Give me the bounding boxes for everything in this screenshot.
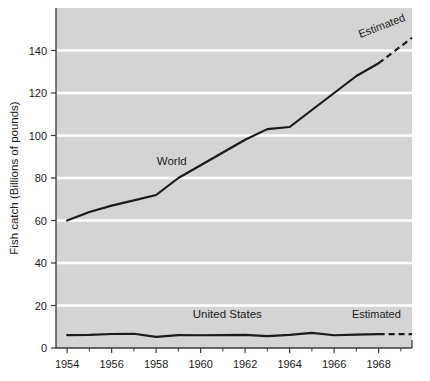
- x-tick-label: 1966: [322, 358, 346, 370]
- x-tick-label: 1958: [144, 358, 168, 370]
- x-tick-label: 1964: [277, 358, 301, 370]
- x-tick-label: 1954: [55, 358, 79, 370]
- y-tick-label: 100: [29, 130, 47, 142]
- y-tick-label: 0: [41, 342, 47, 354]
- x-tick-label: 1956: [99, 358, 123, 370]
- x-tick-label: 1962: [233, 358, 257, 370]
- x-tick-label: 1968: [366, 358, 390, 370]
- y-tick-label: 140: [29, 45, 47, 57]
- annotation-united-states: United States: [193, 308, 262, 320]
- x-tick-label: 1960: [188, 358, 212, 370]
- annotation-world: World: [157, 155, 187, 167]
- chart-canvas: 020406080100120140 195419561958196019621…: [0, 0, 430, 381]
- annotation-estimated-us: Estimated: [352, 308, 401, 320]
- y-tick-label: 20: [35, 300, 47, 312]
- y-tick-label: 80: [35, 172, 47, 184]
- y-tick-label: 40: [35, 257, 47, 269]
- y-tick-label: 120: [29, 87, 47, 99]
- y-tick-label: 60: [35, 215, 47, 227]
- y-axis-title: Fish catch (Billions of pounds): [8, 101, 20, 255]
- fish-catch-chart: 020406080100120140 195419561958196019621…: [0, 0, 430, 381]
